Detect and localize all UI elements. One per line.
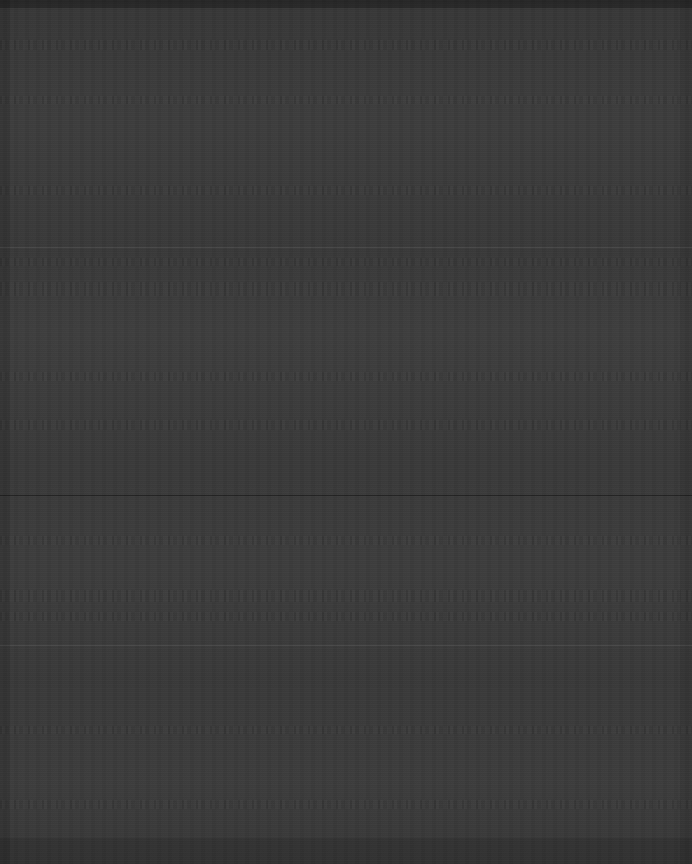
screenshot-canvas: Near-uniform dark charcoal field with ho… bbox=[0, 0, 692, 864]
background-field bbox=[0, 0, 692, 864]
